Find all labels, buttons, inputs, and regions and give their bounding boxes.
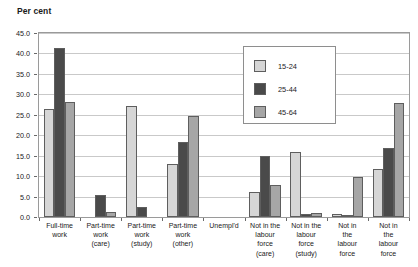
y-tick-label: 10.0 — [16, 172, 30, 181]
bar — [106, 212, 117, 217]
bar — [373, 169, 384, 217]
legend-label: 15-24 — [278, 62, 297, 71]
bar-group — [368, 33, 409, 217]
y-tick-mark — [34, 115, 37, 116]
y-tick-label: 30.0 — [16, 90, 30, 99]
bar — [342, 215, 353, 217]
legend-item[interactable]: 45-64 — [254, 105, 297, 119]
y-tick-label: 20.0 — [16, 131, 30, 140]
y-tick-label: 35.0 — [16, 69, 30, 78]
y-tick-mark — [34, 74, 37, 75]
x-tick-label: Not in thelabourforce(care) — [243, 221, 288, 258]
bar — [65, 102, 76, 217]
bar — [290, 152, 301, 217]
bar — [332, 214, 343, 217]
bar — [260, 156, 271, 217]
y-tick-mark — [34, 197, 37, 198]
y-tick-mark — [34, 135, 37, 136]
x-axis: Full-timeworkPart-timework(care)Part-tim… — [39, 221, 409, 267]
legend-item[interactable]: 25-44 — [254, 82, 297, 96]
legend: 15-2425-4445-64 — [243, 46, 336, 124]
bar-group — [80, 33, 121, 217]
x-tick-label: Unempl'd — [201, 221, 246, 230]
bar — [167, 164, 178, 217]
y-tick-mark — [34, 33, 37, 34]
bar — [301, 214, 312, 217]
bar — [54, 48, 65, 217]
y-tick-mark — [34, 53, 37, 54]
y-tick-mark — [34, 217, 37, 218]
bar — [126, 106, 137, 217]
x-tick-label: Part-timework(care) — [78, 221, 123, 249]
legend-swatch-icon — [254, 60, 266, 72]
y-tick-label: 5.0 — [20, 192, 30, 201]
x-tick-label: Not inthelabourforce — [366, 221, 411, 258]
y-tick-label: 0.0 — [20, 213, 30, 222]
x-tick-label: Part-timework(other) — [160, 221, 205, 249]
y-tick-label: 45.0 — [16, 29, 30, 38]
legend-label: 45-64 — [278, 108, 297, 117]
bar — [353, 177, 364, 217]
y-tick-label: 15.0 — [16, 151, 30, 160]
y-axis: 0.05.010.015.020.025.030.035.040.045.0 — [0, 32, 34, 218]
chart-title: Per cent — [17, 6, 51, 16]
x-tick-label: Not in thelabourforce(study) — [284, 221, 329, 258]
bar — [270, 185, 281, 217]
bar-group — [162, 33, 203, 217]
y-tick-mark — [34, 94, 37, 95]
bar — [178, 142, 189, 217]
bar — [95, 195, 106, 217]
bar — [249, 192, 260, 217]
bar-group — [121, 33, 162, 217]
y-tick-mark — [34, 156, 37, 157]
bar — [44, 109, 55, 217]
bar — [137, 207, 148, 217]
legend-label: 25-44 — [278, 85, 297, 94]
x-tick-label: Full-timework — [37, 221, 82, 239]
bar-group — [203, 33, 244, 217]
legend-swatch-icon — [254, 106, 266, 118]
bar-chart: Per cent 0.05.010.015.020.025.030.035.04… — [0, 0, 418, 267]
x-tick-label: Part-timework(study) — [119, 221, 164, 249]
legend-swatch-icon — [254, 83, 266, 95]
bar — [311, 213, 322, 217]
y-tick-label: 25.0 — [16, 110, 30, 119]
y-tick-label: 40.0 — [16, 49, 30, 58]
x-tick-label: Not inthelabourforce — [325, 221, 370, 258]
legend-item[interactable]: 15-24 — [254, 59, 297, 73]
y-tick-mark — [34, 176, 37, 177]
bar — [188, 116, 199, 217]
bars-layer — [39, 33, 409, 217]
bar-group — [39, 33, 80, 217]
bar — [383, 148, 394, 217]
bar — [394, 103, 405, 217]
